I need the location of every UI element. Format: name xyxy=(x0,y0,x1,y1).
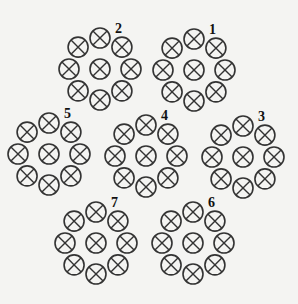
conductor-group-7: 7 xyxy=(55,195,137,284)
conductor-cross-icon xyxy=(64,255,84,275)
conductor-cross-icon xyxy=(105,146,125,166)
conductor-cross-icon xyxy=(86,233,106,253)
conductor-cross-icon xyxy=(39,175,59,195)
group-label: 3 xyxy=(258,109,265,124)
conductor-cross-icon xyxy=(114,168,134,188)
conductor-cross-icon xyxy=(264,147,284,167)
conductor-cross-icon xyxy=(17,122,37,142)
conductor-cross-icon xyxy=(112,81,132,101)
conductor-cross-icon xyxy=(68,81,88,101)
conductor-cross-icon xyxy=(215,60,235,80)
conductor-groups-diagram: 1234567 xyxy=(0,0,298,304)
conductor-group-1: 1 xyxy=(153,22,235,111)
conductor-cross-icon xyxy=(117,233,137,253)
conductor-cross-icon xyxy=(183,264,203,284)
conductor-cross-icon xyxy=(211,125,231,145)
group-label: 4 xyxy=(161,108,168,123)
conductor-cross-icon xyxy=(205,211,225,231)
conductor-cross-icon xyxy=(183,233,203,253)
conductor-cross-icon xyxy=(233,116,253,136)
conductor-cross-icon xyxy=(90,59,110,79)
conductor-cross-icon xyxy=(233,178,253,198)
conductor-cross-icon xyxy=(158,124,178,144)
conductor-cross-icon xyxy=(255,169,275,189)
conductor-cross-icon xyxy=(202,147,222,167)
conductor-cross-icon xyxy=(86,202,106,222)
group-label: 7 xyxy=(111,195,118,210)
conductor-cross-icon xyxy=(68,37,88,57)
conductor-cross-icon xyxy=(233,147,253,167)
conductor-cross-icon xyxy=(211,169,231,189)
conductor-cross-icon xyxy=(121,59,141,79)
conductor-cross-icon xyxy=(59,59,79,79)
conductor-cross-icon xyxy=(70,144,90,164)
conductor-cross-icon xyxy=(108,211,128,231)
conductor-cross-icon xyxy=(153,60,173,80)
conductor-cross-icon xyxy=(205,255,225,275)
conductor-cross-icon xyxy=(162,82,182,102)
conductor-cross-icon xyxy=(61,166,81,186)
conductor-cross-icon xyxy=(108,255,128,275)
conductor-cross-icon xyxy=(90,90,110,110)
conductor-cross-icon xyxy=(206,82,226,102)
conductor-cross-icon xyxy=(114,124,134,144)
conductor-cross-icon xyxy=(162,38,182,58)
conductor-cross-icon xyxy=(90,28,110,48)
conductor-cross-icon xyxy=(161,211,181,231)
conductor-cross-icon xyxy=(64,211,84,231)
conductor-cross-icon xyxy=(136,146,156,166)
conductor-cross-icon xyxy=(17,166,37,186)
conductor-group-6: 6 xyxy=(152,195,234,284)
conductor-group-4: 4 xyxy=(105,108,187,197)
conductor-group-3: 3 xyxy=(202,109,284,198)
conductor-cross-icon xyxy=(61,122,81,142)
conductor-cross-icon xyxy=(184,91,204,111)
group-label: 1 xyxy=(209,22,216,37)
group-label: 2 xyxy=(115,21,122,36)
conductor-cross-icon xyxy=(167,146,187,166)
conductor-cross-icon xyxy=(112,37,132,57)
conductor-cross-icon xyxy=(255,125,275,145)
conductor-cross-icon xyxy=(136,115,156,135)
conductor-cross-icon xyxy=(158,168,178,188)
conductor-cross-icon xyxy=(39,113,59,133)
conductor-cross-icon xyxy=(86,264,106,284)
conductor-cross-icon xyxy=(136,177,156,197)
conductor-cross-icon xyxy=(184,60,204,80)
conductor-cross-icon xyxy=(39,144,59,164)
group-label: 5 xyxy=(64,106,71,121)
conductor-cross-icon xyxy=(8,144,28,164)
conductor-cross-icon xyxy=(214,233,234,253)
conductor-cross-icon xyxy=(184,29,204,49)
conductor-cross-icon xyxy=(161,255,181,275)
conductor-group-2: 2 xyxy=(59,21,141,110)
conductor-cross-icon xyxy=(55,233,75,253)
conductor-cross-icon xyxy=(183,202,203,222)
group-label: 6 xyxy=(208,195,215,210)
diagram-svg: 1234567 xyxy=(0,0,298,304)
conductor-cross-icon xyxy=(152,233,172,253)
conductor-cross-icon xyxy=(206,38,226,58)
conductor-group-5: 5 xyxy=(8,106,90,195)
